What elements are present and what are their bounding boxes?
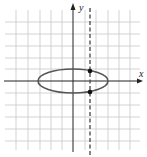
y-axis-arrow-icon bbox=[71, 3, 76, 10]
intersection-point-lower bbox=[88, 90, 93, 95]
y-axis bbox=[71, 3, 76, 152]
x-axis-label: x bbox=[138, 68, 144, 79]
y-axis-label: y bbox=[78, 2, 84, 13]
x-axis-arrow-icon bbox=[137, 79, 143, 84]
coordinate-plane: x y bbox=[0, 0, 147, 157]
intersection-point-upper bbox=[88, 69, 93, 74]
